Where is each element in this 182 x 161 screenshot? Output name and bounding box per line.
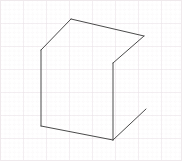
drawing-canvas	[0, 0, 182, 161]
box-figure-svg	[0, 0, 182, 161]
